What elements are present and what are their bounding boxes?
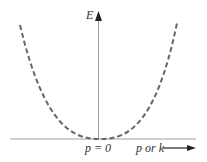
y-axis-arrow-icon [95, 11, 102, 21]
origin-label: p = 0 [84, 141, 111, 155]
x-axis-arrow-icon [187, 145, 196, 151]
dispersion-diagram: E p = 0 p or k [0, 0, 207, 162]
x-axis-label: p or k [135, 141, 165, 155]
y-axis-label: E [85, 8, 94, 22]
